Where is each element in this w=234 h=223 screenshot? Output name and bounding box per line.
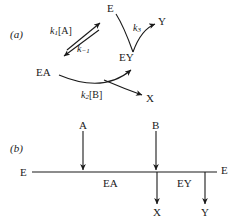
- rate-label-k2: k2[B]: [81, 89, 102, 103]
- arrow-ea-to-ey: [59, 70, 131, 83]
- species-ea-a: EA: [36, 67, 51, 78]
- rate-km1-sub: −1: [81, 47, 89, 55]
- cleland-label-substrate-b: B: [152, 120, 159, 131]
- species-e-top: E: [107, 3, 114, 14]
- arrow-branch-to-x: [104, 80, 142, 95]
- species-y-a: Y: [158, 16, 166, 27]
- rate-label-k3: k3: [133, 22, 141, 36]
- figure-artwork: [0, 0, 234, 223]
- cleland-label-e-start: E: [20, 167, 27, 178]
- panel-b-tag: (b): [10, 143, 23, 154]
- cleland-label-ey: EY: [177, 178, 192, 189]
- cleland-label-e-end: E: [221, 165, 228, 176]
- cleland-label-substrate-a: A: [79, 120, 87, 131]
- cleland-label-product-y: Y: [201, 207, 209, 218]
- rate-label-k1-forward: k1[A]: [50, 25, 72, 39]
- cleland-label-product-x: X: [153, 207, 161, 218]
- rate-k3-sub: 3: [137, 26, 141, 34]
- enzyme-mechanism-figure: (a) E EY Y EA X k1[A] k−1 k2[B] k3 (b) E…: [0, 0, 234, 223]
- species-x-a: X: [146, 93, 154, 104]
- panel-a-tag: (a): [10, 29, 23, 40]
- arrow-e-to-ey: [116, 14, 133, 52]
- rate-k2-reactant: [B]: [89, 89, 102, 100]
- species-ey-a: EY: [119, 52, 134, 63]
- rate-k1-reactant: [A]: [58, 25, 72, 36]
- cleland-label-ea: EA: [103, 178, 118, 189]
- rate-label-k-minus-1: k−1: [77, 43, 90, 57]
